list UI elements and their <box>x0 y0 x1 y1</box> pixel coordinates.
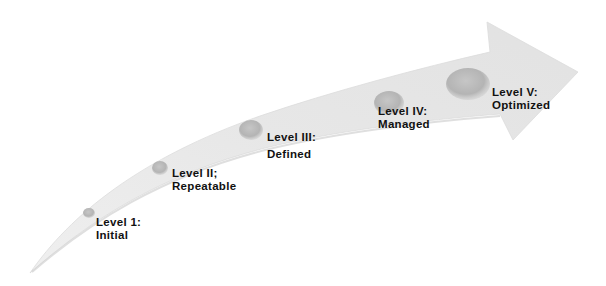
level-1-subtitle: Initial <box>96 229 141 242</box>
level-5-label: Level V: Optimized <box>492 86 550 112</box>
level-3-label: Level III: Defined <box>267 131 316 161</box>
level-5-title: Level V: <box>492 86 550 99</box>
level-4-label: Level IV: Managed <box>378 105 430 131</box>
level-3-title: Level III: <box>267 131 316 144</box>
level-2-subtitle: Repeatable <box>172 180 236 193</box>
level-2-title: Level II; <box>172 167 236 180</box>
level-1-title: Level 1: <box>96 216 141 229</box>
level-3-subtitle: Defined <box>267 148 316 161</box>
level-4-subtitle: Managed <box>378 118 430 131</box>
level-5-ball <box>446 68 490 100</box>
level-3-ball <box>239 120 263 140</box>
level-1-ball <box>83 208 95 218</box>
level-5-subtitle: Optimized <box>492 99 550 112</box>
level-2-ball <box>152 161 168 175</box>
maturity-diagram: Level 1: Initial Level II; Repeatable Le… <box>0 0 606 286</box>
level-1-label: Level 1: Initial <box>96 216 141 242</box>
level-4-title: Level IV: <box>378 105 430 118</box>
level-2-label: Level II; Repeatable <box>172 167 236 193</box>
